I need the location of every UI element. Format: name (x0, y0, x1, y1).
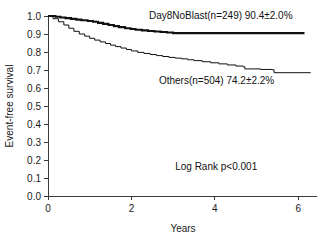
y-tick-label: 0.8 (27, 47, 41, 58)
y-tick-label: 0.6 (27, 83, 41, 94)
y-tick-label: 0.4 (27, 119, 41, 130)
x-tick-label: 2 (129, 203, 135, 214)
chart-annotations: Log Rank p<0.001 (175, 161, 257, 172)
y-tick-label: 1.0 (27, 11, 41, 22)
survival-curve-others (48, 16, 311, 73)
kaplan-meier-figure: 0.00.10.20.30.40.50.60.70.80.91.0 0246 D… (0, 0, 327, 240)
series-label-day8noblast: Day8NoBlast(n=249) 90.4±2.0% (149, 10, 293, 21)
chart-canvas: 0.00.10.20.30.40.50.60.70.80.91.0 0246 D… (0, 0, 327, 240)
series-label-others: Others(n=504) 74.2±2.2% (159, 75, 274, 86)
x-tick-label: 0 (45, 203, 51, 214)
y-tick-label: 0.9 (27, 29, 41, 40)
x-axis-ticks: 0246 (45, 196, 301, 214)
x-tick-label: 4 (212, 203, 218, 214)
x-tick-label: 6 (295, 203, 301, 214)
y-tick-label: 0.1 (27, 173, 41, 184)
y-tick-label: 0.7 (27, 65, 41, 76)
survival-curves (48, 16, 311, 73)
y-tick-label: 0.3 (27, 137, 41, 148)
y-axis-ticks: 0.00.10.20.30.40.50.60.70.80.91.0 (27, 11, 48, 202)
x-axis-title: Years (170, 223, 195, 234)
annotation-log-rank-test: Log Rank p<0.001 (175, 161, 257, 172)
y-tick-label: 0.0 (27, 191, 41, 202)
y-axis-title: Event-free survival (4, 65, 15, 148)
series-labels: Day8NoBlast(n=249) 90.4±2.0%Others(n=504… (149, 10, 293, 86)
y-tick-label: 0.2 (27, 155, 41, 166)
y-tick-label: 0.5 (27, 101, 41, 112)
